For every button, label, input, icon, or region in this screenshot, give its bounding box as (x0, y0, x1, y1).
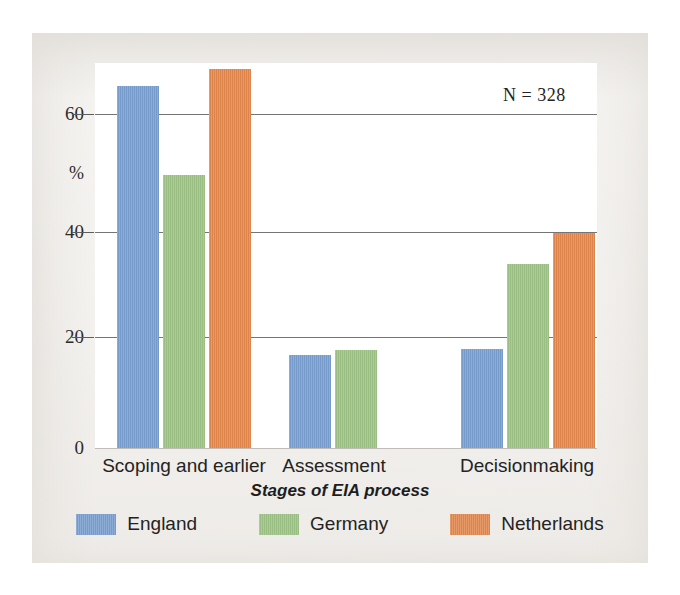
y-tick-mark-20 (72, 337, 94, 338)
bar-texture (461, 349, 503, 448)
gridline-60 (95, 114, 597, 115)
bar-assessment-germany[interactable] (335, 350, 377, 448)
bar-decisionmaking-germany[interactable] (507, 264, 549, 448)
bar-texture (335, 350, 377, 448)
swatch-texture (76, 514, 116, 535)
bar-texture (289, 355, 331, 448)
bar-scoping-netherlands[interactable] (209, 69, 251, 448)
legend: England Germany Netherlands (0, 513, 680, 535)
bar-decisionmaking-netherlands[interactable] (553, 233, 595, 448)
bar-decisionmaking-england[interactable] (461, 349, 503, 448)
legend-swatch-england-icon (76, 514, 116, 535)
bar-texture (163, 175, 205, 448)
legend-item-netherlands[interactable]: Netherlands (450, 513, 603, 535)
legend-item-england[interactable]: England (76, 513, 197, 535)
bar-texture (209, 69, 251, 448)
bar-texture (117, 86, 159, 448)
sample-size-annotation: N = 328 (503, 85, 566, 106)
x-category-label-scoping: Scoping and earlier (102, 455, 266, 477)
bar-scoping-germany[interactable] (163, 175, 205, 448)
bar-assessment-england[interactable] (289, 355, 331, 448)
x-category-label-decisionmaking: Decisionmaking (460, 455, 594, 477)
legend-swatch-germany-icon (259, 514, 299, 535)
bar-texture (553, 233, 595, 448)
swatch-texture (450, 514, 490, 535)
legend-item-germany[interactable]: Germany (259, 513, 388, 535)
bar-texture (507, 264, 549, 448)
legend-label-england: England (127, 513, 197, 535)
legend-label-germany: Germany (310, 513, 388, 535)
plot-area: N = 328 (95, 63, 597, 449)
y-tick-label-0: 0 (46, 437, 84, 459)
legend-swatch-netherlands-icon (450, 514, 490, 535)
legend-label-netherlands: Netherlands (501, 513, 603, 535)
chart-figure: 60 % 40 20 0 N = 328 (0, 0, 680, 595)
x-category-label-assessment: Assessment (282, 455, 385, 477)
y-tick-mark-40 (72, 232, 94, 233)
x-axis-title: Stages of EIA process (251, 481, 430, 501)
y-axis-title: % (46, 163, 84, 184)
bar-scoping-england[interactable] (117, 86, 159, 448)
gridline-0-baseline (95, 448, 597, 449)
swatch-texture (259, 514, 299, 535)
y-tick-mark-60 (72, 114, 94, 115)
